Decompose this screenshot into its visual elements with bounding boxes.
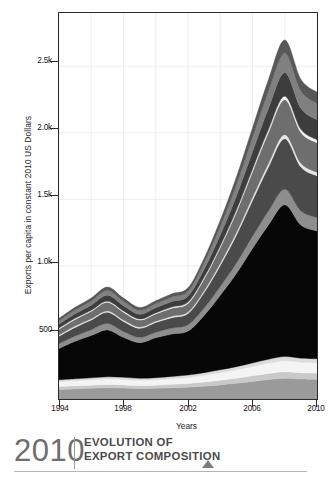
x-tick-label-2010: 2010 xyxy=(301,404,331,413)
caption-block: 2010 EVOLUTION OF EXPORT COMPOSITION xyxy=(14,436,324,474)
y-tick-label-1000: 1.0k xyxy=(37,257,52,266)
x-tick-label-1998: 1998 xyxy=(108,404,138,413)
y-tick-label-1500: 1.5k xyxy=(37,190,52,199)
y-tick-label-2000: 2.0k xyxy=(37,123,52,132)
chart-figure: Exports per capita in constant 2010 US D… xyxy=(0,0,333,477)
x-tick-label-1994: 1994 xyxy=(45,404,75,413)
caption-title-line1: EVOLUTION OF xyxy=(84,436,220,450)
y-tick-label-500: 500 xyxy=(39,325,52,334)
stacked-area-svg xyxy=(59,13,317,399)
x-tick-label-2006: 2006 xyxy=(237,404,267,413)
caption-title: EVOLUTION OF EXPORT COMPOSITION xyxy=(84,436,220,463)
triangle-up-icon xyxy=(202,460,214,468)
caption-divider xyxy=(74,437,75,469)
plot-area xyxy=(58,12,318,400)
caption-rule xyxy=(14,471,307,472)
y-tick-label-2500: 2.5k xyxy=(37,56,52,65)
y-axis-title: Exports per capita in constant 2010 US D… xyxy=(23,10,33,400)
x-axis-title: Years xyxy=(0,421,333,431)
caption-title-line2: EXPORT COMPOSITION xyxy=(84,450,220,464)
x-axis-title-text: Years xyxy=(176,421,197,431)
x-tick-label-2002: 2002 xyxy=(173,404,203,413)
